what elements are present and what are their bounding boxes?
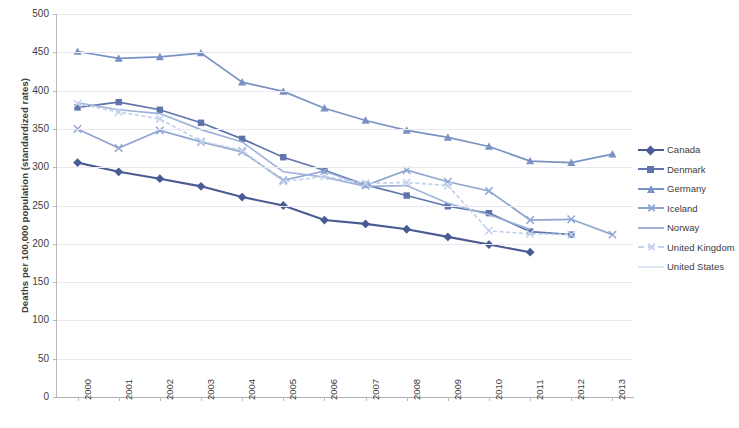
gridline	[57, 282, 633, 283]
x-axis-tick-label: 2005	[288, 379, 298, 400]
legend-marker	[647, 243, 656, 252]
data-point	[280, 154, 286, 160]
legend-item-united-states[interactable]: United States	[638, 257, 739, 277]
legend-key-icon	[638, 261, 664, 273]
x-axis-tick-label: 2001	[124, 379, 134, 400]
legend-marker	[647, 185, 655, 193]
legend-key-icon	[638, 241, 664, 253]
data-point	[402, 225, 411, 234]
y-axis-tick	[53, 129, 57, 130]
x-axis-tick	[407, 397, 408, 401]
line-chart: Deaths per 100,000 population (standardi…	[0, 0, 739, 428]
y-axis-tick-label: 500	[5, 9, 49, 19]
series-norway	[78, 103, 531, 229]
y-axis-tick-label: 50	[5, 354, 49, 364]
x-axis-tick	[571, 397, 572, 401]
x-axis-tick-label: 2012	[576, 379, 586, 400]
gridline	[57, 91, 633, 92]
x-axis-tick-label: 2000	[83, 379, 93, 400]
x-axis-tick	[324, 397, 325, 401]
plot-area	[57, 14, 633, 397]
x-axis-tick-label: 2004	[247, 379, 257, 400]
y-axis-tick-label: 350	[5, 124, 49, 134]
y-axis-tick	[53, 397, 57, 398]
gridline	[57, 320, 633, 321]
x-axis-tick-label: 2009	[453, 379, 463, 400]
legend-marker	[647, 166, 654, 173]
y-axis-tick	[53, 244, 57, 245]
data-point	[443, 233, 452, 242]
data-point	[320, 216, 329, 225]
y-axis-tick	[53, 52, 57, 53]
y-axis-tick-label: 250	[5, 201, 49, 211]
data-point	[238, 193, 247, 202]
legend-item-label: Norway	[667, 222, 699, 233]
gridline	[57, 129, 633, 130]
y-axis-tick-label: 0	[5, 392, 49, 402]
x-axis-tick	[489, 397, 490, 401]
chart-legend: CanadaDenmarkGermanyIcelandNorwayUnited …	[638, 140, 739, 277]
data-point	[155, 174, 164, 183]
data-point	[485, 227, 492, 234]
legend-key-icon	[638, 183, 664, 195]
legend-item-canada[interactable]: Canada	[638, 140, 739, 160]
legend-item-norway[interactable]: Norway	[638, 218, 739, 238]
x-axis-tick	[448, 397, 449, 401]
legend-key-icon	[638, 144, 664, 156]
legend-item-label: Denmark	[667, 164, 706, 175]
data-point	[361, 219, 370, 228]
gridline	[57, 244, 633, 245]
legend-item-label: United States	[667, 261, 724, 272]
data-point	[404, 192, 410, 198]
legend-item-united-kingdom[interactable]: United Kingdom	[638, 238, 739, 258]
y-axis-tick-label: 300	[5, 162, 49, 172]
data-point	[73, 158, 82, 167]
x-axis-tick-label: 2010	[494, 379, 504, 400]
legend-item-germany[interactable]: Germany	[638, 179, 739, 199]
legend-item-label: Germany	[667, 183, 706, 194]
data-point	[157, 107, 163, 113]
x-axis-tick	[612, 397, 613, 401]
x-axis-tick	[283, 397, 284, 401]
x-axis-tick	[366, 397, 367, 401]
x-axis-tick	[160, 397, 161, 401]
data-point	[526, 248, 535, 257]
x-axis-tick-label: 2011	[535, 380, 545, 400]
legend-item-iceland[interactable]: Iceland	[638, 199, 739, 219]
gridline	[57, 167, 633, 168]
x-axis-tick-label: 2002	[165, 379, 175, 400]
y-axis-tick	[53, 282, 57, 283]
y-axis-tick-label: 100	[5, 315, 49, 325]
data-point	[116, 99, 122, 105]
y-axis-tick	[53, 320, 57, 321]
x-axis-tick-label: 2006	[329, 379, 339, 400]
x-axis-tick	[242, 397, 243, 401]
legend-key-icon	[638, 222, 664, 234]
y-axis-tick	[53, 167, 57, 168]
data-point	[73, 47, 81, 54]
legend-key-icon	[638, 202, 664, 214]
x-axis-tick-label: 2013	[617, 379, 627, 400]
data-point	[609, 231, 616, 238]
gridline	[57, 52, 633, 53]
gridline	[57, 14, 633, 15]
gridline	[57, 359, 633, 360]
data-point	[608, 150, 616, 157]
series-germany	[73, 47, 616, 165]
x-axis-tick-label: 2007	[371, 379, 381, 400]
data-point	[115, 144, 122, 151]
y-axis-tick-label: 400	[5, 86, 49, 96]
y-axis-tick-label: 200	[5, 239, 49, 249]
x-axis-line	[56, 397, 634, 398]
x-axis-tick-label: 2003	[206, 379, 216, 400]
legend-marker	[646, 145, 656, 155]
legend-item-denmark[interactable]: Denmark	[638, 160, 739, 180]
legend-item-label: Iceland	[667, 203, 698, 214]
legend-key-icon	[638, 163, 664, 175]
y-axis-tick-label: 450	[5, 47, 49, 57]
legend-item-label: United Kingdom	[667, 242, 735, 253]
data-point	[197, 182, 206, 191]
legend-item-label: Canada	[667, 144, 700, 155]
y-axis-tick-label: 150	[5, 277, 49, 287]
legend-marker	[647, 204, 656, 213]
